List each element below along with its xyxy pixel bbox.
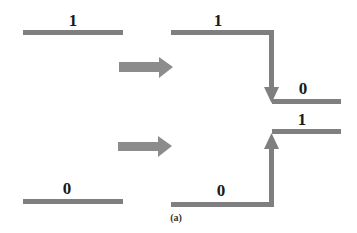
right-arrow-icon <box>119 57 173 78</box>
output-bottom-high-label: 1 <box>298 110 307 129</box>
output-bottom-rise-edge <box>269 146 274 207</box>
output-top-low-label: 0 <box>299 79 308 98</box>
input-bottom-label: 0 <box>63 179 72 198</box>
output-bottom-low-line <box>171 202 274 207</box>
input-bottom-line <box>23 199 123 204</box>
output-top-fall-edge <box>269 30 274 90</box>
output-top-high-label: 1 <box>214 11 223 30</box>
input-top-line <box>23 30 123 35</box>
up-arrow-icon <box>264 133 279 149</box>
output-bottom-high-line <box>272 129 341 134</box>
output-bottom-signal: 0 1 <box>171 110 341 207</box>
input-top-signal: 1 <box>23 11 123 35</box>
figure-caption: (a) <box>170 212 182 224</box>
input-bottom-signal: 0 <box>23 179 123 204</box>
right-arrow-icon <box>118 136 172 157</box>
output-bottom-low-label: 0 <box>217 181 226 200</box>
diagram-canvas: 1 0 1 0 0 1 (a) <box>0 0 357 233</box>
output-top-signal: 1 0 <box>171 11 341 104</box>
output-top-high-line <box>171 30 274 35</box>
input-top-label: 1 <box>69 11 78 30</box>
output-top-low-line <box>272 99 341 104</box>
